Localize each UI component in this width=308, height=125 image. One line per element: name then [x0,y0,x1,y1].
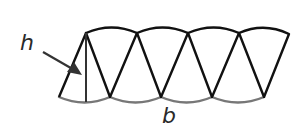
sector-radii [59,33,289,97]
height-label: h [20,30,34,55]
base-label: b [162,103,176,125]
parallelogram-sectors-diagram: h b [0,0,308,125]
